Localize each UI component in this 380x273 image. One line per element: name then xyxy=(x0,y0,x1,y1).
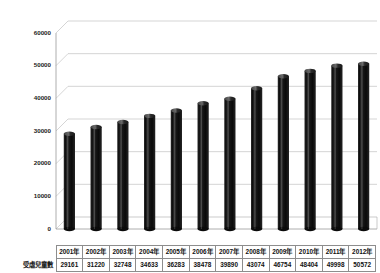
table-data-cell: 39890 xyxy=(216,259,243,272)
table-data-cell: 36283 xyxy=(163,259,190,272)
table-column-header: 2008年 xyxy=(242,246,269,259)
chart-bar xyxy=(144,114,155,232)
table-column-header: 2011年 xyxy=(322,246,349,259)
y-axis-tick-label: 30000 xyxy=(34,127,52,134)
table-data-cell: 32748 xyxy=(109,259,136,272)
chart-depth-connector xyxy=(56,21,68,33)
y-axis-tick-label: 0 xyxy=(48,225,52,232)
table-column-header: 2003年 xyxy=(109,246,136,259)
table-column-header: 2009年 xyxy=(269,246,296,259)
chart-bar xyxy=(91,125,102,231)
chart-bar xyxy=(331,63,342,231)
table-column-header: 2007年 xyxy=(216,246,243,259)
chart-bar xyxy=(171,108,182,231)
table-column-header: 2006年 xyxy=(189,246,216,259)
table-data-cell: 50572 xyxy=(349,259,376,272)
chart-depth-connector xyxy=(56,119,68,131)
chart-bar xyxy=(64,132,75,232)
y-axis-tick-label: 60000 xyxy=(34,29,52,36)
chart-depth-connector xyxy=(56,86,68,98)
chart-bar xyxy=(251,86,262,231)
table-data-cell: 31220 xyxy=(83,259,110,272)
y-axis-tick-label: 50000 xyxy=(34,61,52,68)
table-column-header: 2012年 xyxy=(349,246,376,259)
table-data-cell: 29161 xyxy=(56,259,83,272)
chart-bar xyxy=(224,96,235,231)
table-column-header: 2005年 xyxy=(163,246,190,259)
table-column-header: 2010年 xyxy=(296,246,323,259)
table-row-headers: 2001年2002年2003年2004年2005年2006年2007年2008年… xyxy=(4,246,376,259)
table-corner-cell xyxy=(4,246,56,259)
table-data-cell: 38478 xyxy=(189,259,216,272)
y-axis-tick-label: 20000 xyxy=(34,159,52,166)
chart-bar xyxy=(305,69,316,232)
table-data-cell: 48404 xyxy=(296,259,323,272)
table-data-cell: 49998 xyxy=(322,259,349,272)
chart-bar xyxy=(117,120,128,231)
bar-chart-figure: 0100002000030000400005000060000 2001年200… xyxy=(0,0,380,273)
chart-data-table: 2001年2002年2003年2004年2005年2006年2007年2008年… xyxy=(4,245,376,272)
chart-bar xyxy=(358,62,369,232)
table-column-header: 2002年 xyxy=(83,246,110,259)
chart-bar xyxy=(278,74,289,231)
table-row-values: 受虐兒童數29161312203274834633362833847839890… xyxy=(4,259,376,272)
table-column-header: 2001年 xyxy=(56,246,83,259)
chart-depth-connector xyxy=(56,54,68,66)
table-row-header-label: 受虐兒童數 xyxy=(4,259,56,272)
chart-plot-area: 0100002000030000400005000060000 xyxy=(0,0,380,245)
table-data-cell: 34633 xyxy=(136,259,163,272)
table-data-cell: 43074 xyxy=(242,259,269,272)
y-axis-tick-label: 40000 xyxy=(34,94,52,101)
table-column-header: 2004年 xyxy=(136,246,163,259)
chart-bar xyxy=(198,101,209,231)
chart-floor xyxy=(56,217,377,229)
y-axis-tick-label: 10000 xyxy=(34,192,52,199)
table-data-cell: 46754 xyxy=(269,259,296,272)
